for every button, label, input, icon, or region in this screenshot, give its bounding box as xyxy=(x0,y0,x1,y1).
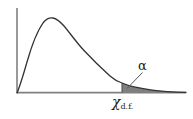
distribution-plot xyxy=(0,0,193,119)
degrees-of-freedom-subscript: d.f. xyxy=(120,102,133,111)
density-curve xyxy=(17,18,186,93)
alpha-label: α xyxy=(138,59,147,72)
critical-value-label: χd.f. xyxy=(112,95,133,111)
chi-square-figure: α χd.f. xyxy=(0,0,193,119)
alpha-leader-line xyxy=(127,73,143,89)
